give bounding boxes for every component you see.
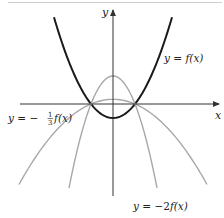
label-third-rhs: f(x) xyxy=(53,112,72,124)
label-third-eq: = − xyxy=(14,112,38,124)
curve-label-f: y = f(x) xyxy=(163,52,203,64)
y-axis-label: y xyxy=(101,6,109,19)
label-two-eq: = −2 xyxy=(139,200,170,212)
label-third-frac-num: 1 xyxy=(48,111,52,119)
label-two-rhs: f(x) xyxy=(169,200,188,212)
top-divider xyxy=(8,2,222,3)
label-third-main: y = − xyxy=(7,112,38,124)
function-graph-figure: x y y = f(x) y = − 1 3 f(x) y = −2f(x) xyxy=(0,0,224,218)
label-third-frac-den: 3 xyxy=(48,119,52,127)
label-f-eq: = xyxy=(170,52,185,64)
x-axis-label: x xyxy=(215,109,222,122)
label-f-rhs: f(x) xyxy=(184,52,203,64)
plot-area: x y y = f(x) y = − 1 3 f(x) y = −2f(x) xyxy=(0,0,224,218)
curve-label-neg-two-f: y = −2f(x) xyxy=(132,200,188,212)
